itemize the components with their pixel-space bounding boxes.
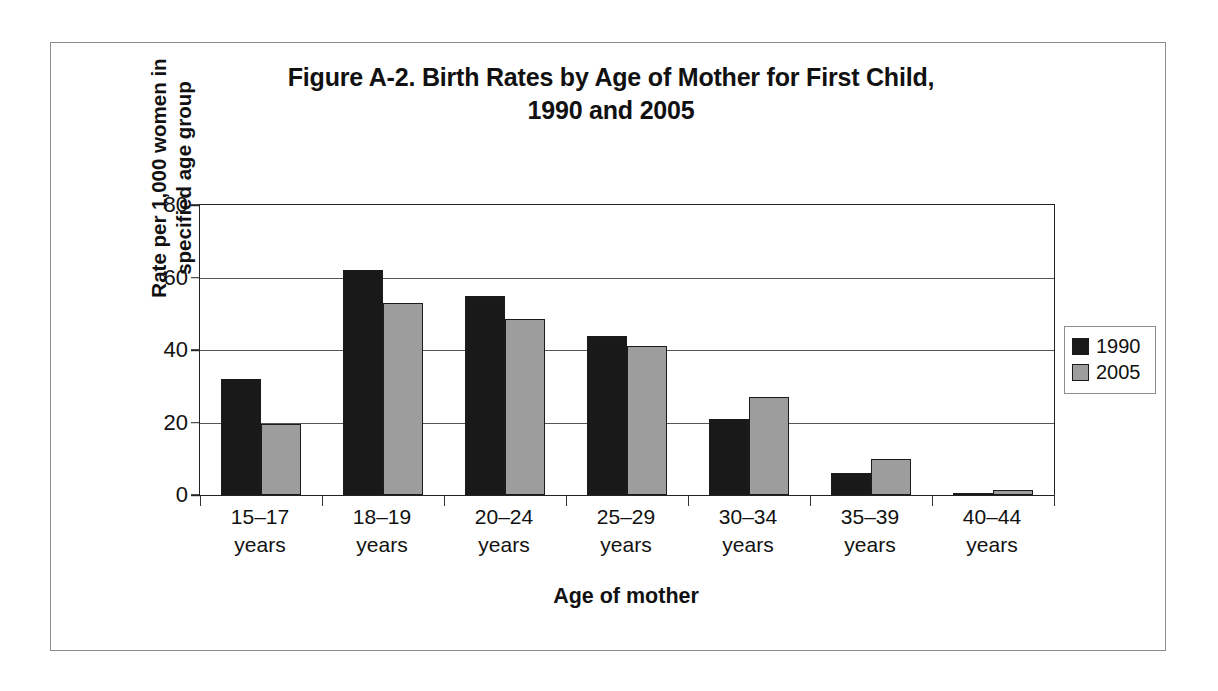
x-category-label: 15–17years <box>199 503 321 558</box>
bar-2005-5 <box>749 397 789 495</box>
bar-group <box>932 205 1054 495</box>
bar-1990-7 <box>953 493 993 495</box>
bar-2005-3 <box>505 319 545 495</box>
x-axis-title: Age of mother <box>199 584 1053 609</box>
x-category-unit: years <box>931 531 1053 559</box>
bar-2005-4 <box>627 346 667 495</box>
y-tick-mark <box>191 494 200 496</box>
x-category-label: 25–29years <box>565 503 687 558</box>
bar-1990-6 <box>831 473 871 495</box>
x-category-unit: years <box>687 531 809 559</box>
x-category-unit: years <box>321 531 443 559</box>
x-category-range: 35–39 <box>809 503 931 531</box>
bar-1990-3 <box>465 296 505 495</box>
bar-group <box>688 205 810 495</box>
chart-title: Figure A-2. Birth Rates by Age of Mother… <box>111 61 1111 127</box>
x-category-unit: years <box>809 531 931 559</box>
bar-1990-5 <box>709 419 749 495</box>
legend-swatch-icon <box>1072 364 1089 381</box>
x-category-label: 30–34years <box>687 503 809 558</box>
plot-area: 020406080 <box>199 204 1055 496</box>
x-category-label: 35–39years <box>809 503 931 558</box>
bar-2005-1 <box>261 424 301 495</box>
bar-2005-6 <box>871 459 911 495</box>
x-category-label: 18–19years <box>321 503 443 558</box>
x-category-range: 18–19 <box>321 503 443 531</box>
y-tick-mark <box>191 422 200 424</box>
x-category-label: 40–44years <box>931 503 1053 558</box>
bar-group <box>444 205 566 495</box>
legend: 19902005 <box>1064 326 1156 394</box>
y-tick-label: 40 <box>164 337 188 363</box>
legend-label: 2005 <box>1096 361 1141 384</box>
x-category-unit: years <box>199 531 321 559</box>
y-tick-mark <box>191 204 200 206</box>
bar-group <box>566 205 688 495</box>
bar-1990-1 <box>221 379 261 495</box>
bar-group <box>810 205 932 495</box>
y-tick-label: 80 <box>164 192 188 218</box>
legend-item-1990: 1990 <box>1072 335 1148 358</box>
bar-2005-7 <box>993 490 1033 495</box>
x-category-range: 15–17 <box>199 503 321 531</box>
bar-group <box>200 205 322 495</box>
x-category-label: 20–24years <box>443 503 565 558</box>
chart-title-line-1: Figure A-2. Birth Rates by Age of Mother… <box>111 61 1111 94</box>
x-category-unit: years <box>443 531 565 559</box>
bar-1990-2 <box>343 270 383 495</box>
legend-item-2005: 2005 <box>1072 361 1148 384</box>
bar-1990-4 <box>587 336 627 496</box>
x-category-unit: years <box>565 531 687 559</box>
x-category-range: 25–29 <box>565 503 687 531</box>
y-tick-label: 60 <box>164 265 188 291</box>
y-tick-label: 0 <box>176 482 188 508</box>
bars-layer <box>200 205 1054 495</box>
bar-2005-2 <box>383 303 423 495</box>
x-axis-category-labels: 15–17years18–19years20–24years25–29years… <box>199 503 1053 558</box>
y-tick-mark <box>191 349 200 351</box>
figure-frame: Figure A-2. Birth Rates by Age of Mother… <box>50 42 1166 651</box>
chart-title-line-2: 1990 and 2005 <box>111 94 1111 127</box>
legend-swatch-icon <box>1072 338 1089 355</box>
bar-group <box>322 205 444 495</box>
x-category-range: 40–44 <box>931 503 1053 531</box>
y-tick-mark <box>191 277 200 279</box>
x-category-range: 30–34 <box>687 503 809 531</box>
x-tick-mark <box>1054 495 1055 506</box>
legend-label: 1990 <box>1096 335 1141 358</box>
x-category-range: 20–24 <box>443 503 565 531</box>
y-tick-label: 20 <box>164 410 188 436</box>
